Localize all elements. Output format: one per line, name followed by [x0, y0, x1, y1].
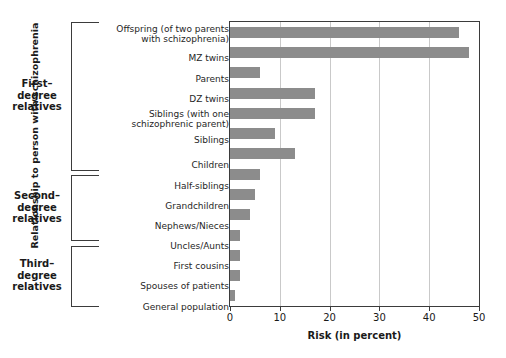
group-third-line1: Third–: [5, 258, 69, 270]
category-label-siblings: Siblings: [99, 135, 229, 145]
bar-6: [230, 148, 295, 159]
group-first-line1: First–: [5, 78, 69, 90]
x-tick-label-30: 30: [364, 312, 394, 323]
group-label-third-degree: Third– degree relatives: [5, 258, 69, 293]
x-tick-label-50: 50: [464, 312, 494, 323]
bar-9: [230, 209, 250, 220]
category-label-parents: Parents: [99, 74, 229, 84]
category-label-half-siblings: Half-siblings: [99, 181, 229, 191]
group-label-second-degree: Second– degree relatives: [5, 190, 69, 225]
x-tick-label-10: 10: [265, 312, 295, 323]
bar-0: [230, 27, 459, 38]
category-label-offspring: Offspring (of two parents with schizophr…: [99, 24, 229, 44]
x-tick-label-20: 20: [315, 312, 345, 323]
gridline-20: [330, 22, 331, 306]
bracket-first-degree: [71, 22, 99, 171]
chart-figure: Relationship to person with schizophreni…: [0, 0, 506, 358]
category-label-first-cousins: First cousins: [99, 261, 229, 271]
category-label-siblings-one-parent-line2: schizophrenic parent): [99, 119, 229, 129]
category-label-mz-twins: MZ twins: [99, 53, 229, 63]
group-first-line2: degree: [5, 90, 69, 102]
x-tick-20: [330, 306, 331, 311]
bracket-second-degree: [71, 175, 99, 241]
gridline-30: [379, 22, 380, 306]
x-tick-50: [479, 306, 480, 311]
bar-10: [230, 230, 240, 241]
gridline-10: [280, 22, 281, 306]
group-third-line3: relatives: [5, 281, 69, 293]
bar-5: [230, 128, 275, 139]
bar-2: [230, 67, 260, 78]
group-label-first-degree: First– degree relatives: [5, 78, 69, 113]
category-label-spouses: Spouses of patients: [99, 281, 229, 291]
bar-3: [230, 88, 315, 99]
category-label-offspring-line1: Offspring (of two parents: [99, 24, 229, 34]
x-axis-title: Risk (in percent): [229, 330, 480, 341]
category-label-siblings-one-parent-line1: Siblings (with one: [99, 109, 229, 119]
bar-11: [230, 250, 240, 261]
category-label-grandchildren: Grandchildren: [99, 201, 229, 211]
x-tick-label-0: 0: [215, 312, 245, 323]
group-third-line2: degree: [5, 270, 69, 282]
x-tick-10: [280, 306, 281, 311]
bar-12: [230, 270, 240, 281]
y-axis-title: Relationship to person with schizophreni…: [29, 6, 40, 266]
x-tick-30: [379, 306, 380, 311]
x-tick-label-40: 40: [414, 312, 444, 323]
x-tick-40: [429, 306, 430, 311]
bracket-third-degree: [71, 246, 99, 307]
group-first-line3: relatives: [5, 101, 69, 113]
category-label-list: Offspring (of two parents with schizophr…: [99, 0, 229, 358]
plot-area: [229, 21, 480, 307]
group-second-line1: Second–: [5, 190, 69, 202]
category-label-siblings-one-parent: Siblings (with one schizophrenic parent): [99, 109, 229, 129]
bar-13: [230, 290, 235, 301]
category-label-offspring-line2: with schizophrenia): [99, 34, 229, 44]
category-label-general-population: General population: [99, 302, 229, 312]
bar-7: [230, 169, 260, 180]
bar-4: [230, 108, 315, 119]
category-label-nephews-nieces: Nephews/Nieces: [99, 221, 229, 231]
category-label-children: Children: [99, 160, 229, 170]
category-label-dz-twins: DZ twins: [99, 94, 229, 104]
bar-1: [230, 47, 469, 58]
x-tick-0: [230, 306, 231, 311]
bar-8: [230, 189, 255, 200]
group-second-line2: degree: [5, 202, 69, 214]
group-second-line3: relatives: [5, 213, 69, 225]
category-label-uncles-aunts: Uncles/Aunts: [99, 241, 229, 251]
gridline-40: [429, 22, 430, 306]
